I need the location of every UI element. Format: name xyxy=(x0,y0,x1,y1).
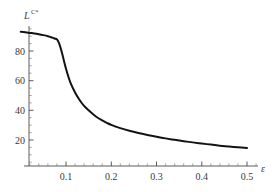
y-tick-label-60: 60 xyxy=(15,75,25,86)
y-tick-label-40: 40 xyxy=(15,105,25,116)
x-tick-label-0.4: 0.4 xyxy=(196,171,209,182)
y-axis-title: L C* xyxy=(23,8,39,21)
x-tick-label-0.5: 0.5 xyxy=(241,171,254,182)
y-axis-title-base: L xyxy=(23,10,30,21)
chart-figure: 80 60 40 20 0.1 0.2 0.3 0.4 0.5 ε L C* xyxy=(0,0,273,192)
x-tick-label-0.2: 0.2 xyxy=(105,171,118,182)
y-tick-label-80: 80 xyxy=(15,46,25,57)
plot-canvas: 80 60 40 20 0.1 0.2 0.3 0.4 0.5 ε L C* xyxy=(0,0,273,192)
x-tick-label-0.1: 0.1 xyxy=(60,171,73,182)
y-axis-title-superscript: C* xyxy=(31,8,39,15)
y-tick-label-20: 20 xyxy=(15,135,25,146)
x-axis-title: ε xyxy=(261,163,265,174)
x-tick-label-0.3: 0.3 xyxy=(150,171,163,182)
data-series-curve xyxy=(21,32,247,148)
